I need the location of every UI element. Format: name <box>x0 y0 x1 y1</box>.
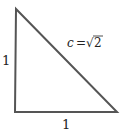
sqrt-symbol: √ <box>86 36 94 50</box>
bottom-side-label: 1 <box>62 117 70 132</box>
triangle-diagram: 1 1 c = √ 2 <box>0 0 126 136</box>
hypotenuse-variable: c <box>67 36 74 50</box>
left-side-label: 1 <box>2 53 10 68</box>
right-triangle <box>15 9 117 112</box>
equals-sign: = <box>76 36 86 50</box>
triangle-svg: 1 1 c = √ 2 <box>0 0 126 136</box>
radicand: 2 <box>94 36 102 50</box>
